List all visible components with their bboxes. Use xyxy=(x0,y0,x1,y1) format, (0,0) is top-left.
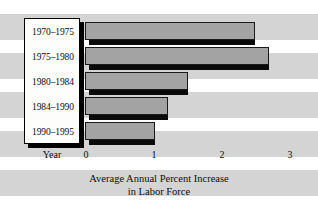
year-label-1970-1975: 1970–1975 xyxy=(25,27,81,37)
x-tick-3: 3 xyxy=(280,149,300,160)
caption-line-2: in Labor Force xyxy=(0,185,318,198)
bar-1970-1975 xyxy=(85,22,255,40)
bar-1984-1990 xyxy=(85,97,168,115)
caption-line-1: Average Annual Percent Increase xyxy=(0,172,318,185)
x-tick-0: 0 xyxy=(76,149,96,160)
plot-area: 1970–1975 1975–1980 1980–1984 1984–1990 … xyxy=(0,0,318,165)
bar-1990-1995 xyxy=(85,122,155,140)
chart-figure: 1970–1975 1975–1980 1980–1984 1984–1990 … xyxy=(0,0,318,204)
x-tick-2: 2 xyxy=(212,149,232,160)
year-label-1984-1990: 1984–1990 xyxy=(25,102,81,112)
bar-1975-1980 xyxy=(85,47,269,65)
year-label-1990-1995: 1990–1995 xyxy=(25,127,81,137)
year-label-1980-1984: 1980–1984 xyxy=(25,77,81,87)
x-tick-1: 1 xyxy=(144,149,164,160)
axis-label-year: Year xyxy=(24,149,80,160)
x-axis: Year 0 1 2 3 xyxy=(0,148,318,165)
year-legend-box: 1970–1975 1975–1980 1980–1984 1984–1990 … xyxy=(24,18,80,144)
year-label-1975-1980: 1975–1980 xyxy=(25,52,81,62)
chart-caption: Average Annual Percent Increase in Labor… xyxy=(0,172,318,198)
bar-1980-1984 xyxy=(85,72,188,90)
